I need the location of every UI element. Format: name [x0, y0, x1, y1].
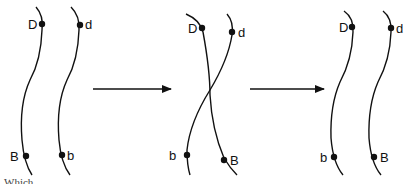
- label-b: b: [169, 148, 176, 163]
- allele-d-dot: [229, 29, 235, 35]
- allele-D-dot: [199, 25, 205, 31]
- allele-B-dot: [23, 153, 29, 159]
- allele-d-dot: [388, 25, 394, 31]
- label-d: d: [396, 21, 403, 36]
- allele-d-dot: [77, 22, 83, 28]
- allele-B-dot: [371, 154, 377, 160]
- label-B: B: [230, 153, 239, 168]
- label-D: D: [339, 20, 348, 35]
- chromosome-D-B: [186, 14, 237, 175]
- label-d: d: [238, 25, 245, 40]
- chromosome-D-b: [331, 11, 353, 175]
- allele-b-dot: [184, 152, 190, 158]
- label-D: D: [188, 21, 197, 36]
- allele-b-dot: [59, 152, 65, 158]
- allele-D-dot: [39, 21, 45, 27]
- panel-after: D d b B: [320, 11, 403, 175]
- label-B: B: [380, 150, 389, 165]
- caption-text-cut-off: Which...: [4, 176, 42, 184]
- chromosome-left: [21, 7, 42, 175]
- label-b: b: [67, 148, 74, 163]
- allele-D-dot: [349, 24, 355, 30]
- allele-b-dot: [331, 154, 337, 160]
- panel-crossing-over: D d b B: [169, 14, 245, 175]
- label-D: D: [28, 17, 37, 32]
- label-b: b: [320, 150, 327, 165]
- label-d: d: [85, 17, 92, 32]
- allele-B-dot: [221, 157, 227, 163]
- crossover-diagram: D d B b D d b B D d b B: [0, 0, 409, 184]
- panel-before: D d B b: [10, 7, 92, 175]
- label-B: B: [10, 149, 19, 164]
